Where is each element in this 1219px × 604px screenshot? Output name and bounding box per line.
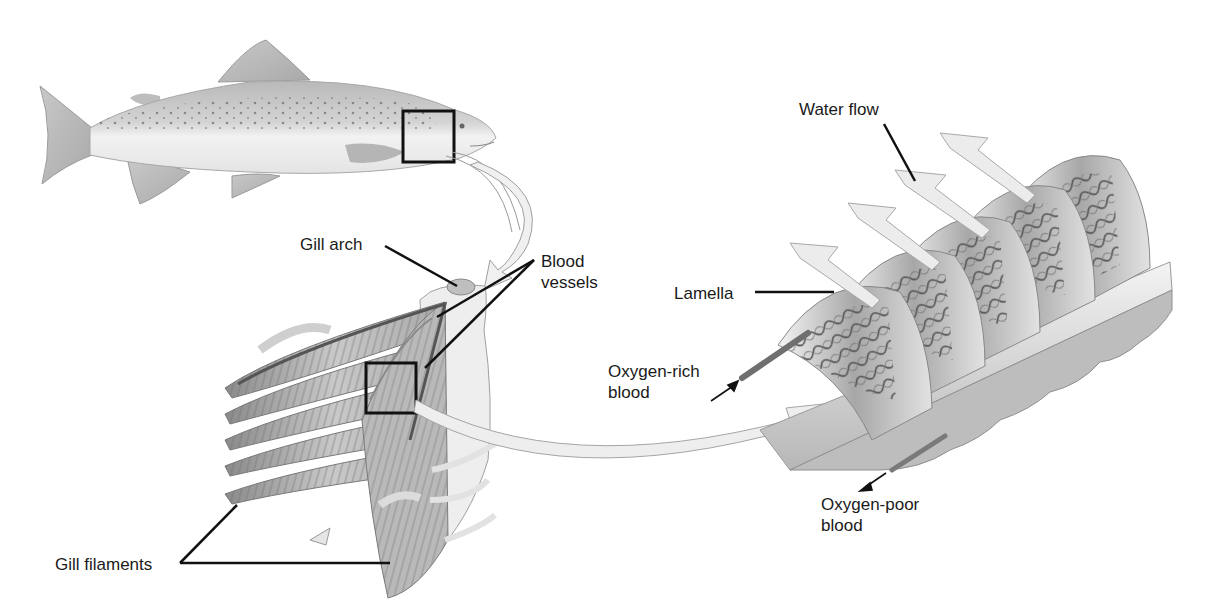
leader-gill-arch — [385, 246, 457, 286]
label-oxygen-rich-blood: Oxygen-rich blood — [608, 361, 700, 403]
label-oxygen-poor-blood: Oxygen-poor blood — [821, 494, 919, 536]
leader-gill-filaments-left — [180, 505, 237, 563]
fish-illustration — [40, 40, 520, 232]
label-gill-filaments: Gill filaments — [55, 554, 152, 575]
gill-diagram: Gill arch Blood vessels Gill filaments W… — [0, 0, 1219, 604]
label-blood-vessels: Blood vessels — [541, 251, 598, 293]
label-gill-arch: Gill arch — [300, 234, 362, 255]
lamellae-illustration — [742, 133, 1172, 470]
label-lamella: Lamella — [674, 283, 734, 304]
label-water-flow: Water flow — [799, 99, 879, 120]
diagram-artwork — [0, 0, 1219, 604]
gill-arch-illustration — [225, 279, 500, 598]
